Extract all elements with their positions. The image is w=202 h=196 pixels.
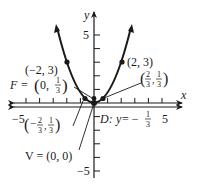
y-tick-label-5: 5 xyxy=(83,28,89,42)
point-2-3 xyxy=(119,59,124,64)
parabola-chart: y x 5 −5 −5 5 (−2, 3) (2, 3) F = ( 0, 1 … xyxy=(0,0,202,196)
svg-text:0,: 0, xyxy=(40,78,49,92)
svg-text:3: 3 xyxy=(146,80,150,89)
svg-text:3: 3 xyxy=(38,126,42,135)
curve-arrow-left xyxy=(54,24,60,33)
svg-text:3: 3 xyxy=(157,80,161,89)
point-lr-left xyxy=(82,96,87,101)
x-tick-label-neg5: −5 xyxy=(12,112,25,126)
svg-text:2: 2 xyxy=(146,70,150,79)
svg-text:y: y xyxy=(115,112,122,126)
svg-text:−: − xyxy=(30,117,36,129)
svg-text:1: 1 xyxy=(146,110,150,119)
point-neg2-3 xyxy=(64,59,69,64)
svg-text:= −: = − xyxy=(122,112,139,126)
x-axis-label: x xyxy=(180,88,187,102)
svg-text:,: , xyxy=(152,74,155,85)
x-tick-label-5: 5 xyxy=(162,112,168,126)
label-point-2-3: (2, 3) xyxy=(127,55,153,69)
svg-text:,: , xyxy=(44,120,47,131)
label-point-neg2-3: (−2, 3) xyxy=(25,63,58,77)
lr-left-leader xyxy=(73,101,83,126)
curve-arrow-right xyxy=(128,24,134,33)
svg-text:D:: D: xyxy=(99,112,113,126)
label-lr-right: ( 2 3 , 1 3 ) xyxy=(140,70,168,89)
label-lr-left: ( − 2 3 , 1 3 ) xyxy=(24,116,60,135)
svg-text:): ) xyxy=(62,76,68,95)
label-vertex: V = (0, 0) xyxy=(25,149,72,163)
svg-text:): ) xyxy=(163,70,168,88)
svg-text:F =: F = xyxy=(9,78,28,92)
y-axis-label: y xyxy=(83,8,90,22)
svg-text:1: 1 xyxy=(56,76,60,85)
svg-text:(: ( xyxy=(140,70,145,88)
svg-text:3: 3 xyxy=(49,126,53,135)
vertex-leader xyxy=(79,103,94,150)
label-directrix: D: y = − 1 3 xyxy=(99,110,151,129)
point-lr-right xyxy=(100,96,105,101)
svg-text:1: 1 xyxy=(49,116,53,125)
point-vertex xyxy=(91,100,97,106)
svg-text:3: 3 xyxy=(56,86,60,95)
label-focus: F = ( 0, 1 3 ) xyxy=(9,76,68,95)
svg-text:(: ( xyxy=(24,116,29,134)
svg-text:2: 2 xyxy=(38,116,42,125)
svg-text:3: 3 xyxy=(146,120,150,129)
svg-text:): ) xyxy=(55,116,60,134)
svg-text:1: 1 xyxy=(157,70,161,79)
y-tick-label-neg5: −5 xyxy=(77,164,90,178)
